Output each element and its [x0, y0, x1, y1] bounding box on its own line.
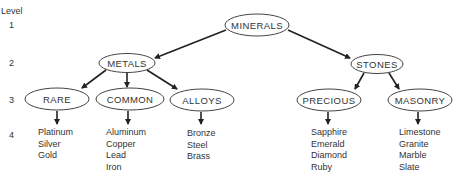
- leaf-item: Emerald: [311, 139, 347, 151]
- leaf-item: Copper: [106, 139, 146, 151]
- leaf-item: Lead: [106, 150, 146, 162]
- node-rare: RARE: [43, 94, 71, 105]
- level-4-label: 4: [9, 130, 14, 140]
- leaf-list-precious: Sapphire Emerald Diamond Ruby: [311, 127, 347, 173]
- leaf-list-common: Aluminum Copper Lead Iron: [106, 127, 146, 173]
- level-2-label: 2: [9, 58, 14, 68]
- leaf-list-rare: Platinum Silver Gold: [38, 127, 73, 162]
- leaf-item: Bronze: [187, 128, 216, 140]
- leaf-list-alloys: Bronze Steel Brass: [187, 128, 216, 163]
- node-masonry: MASONRY: [395, 95, 446, 106]
- leaf-item: Steel: [187, 140, 216, 152]
- node-alloys: ALLOYS: [182, 95, 221, 106]
- leaf-item: Slate: [399, 162, 441, 174]
- leaf-item: Iron: [106, 162, 146, 174]
- leaf-item: Limestone: [399, 127, 441, 139]
- leaf-item: Platinum: [38, 127, 73, 139]
- leaf-item: Sapphire: [311, 127, 347, 139]
- node-metals: METALS: [107, 58, 147, 69]
- leaf-item: Brass: [187, 151, 216, 163]
- level-heading: Level: [1, 6, 23, 16]
- leaf-item: Granite: [399, 139, 441, 151]
- node-minerals: MINERALS: [231, 20, 283, 31]
- level-3-label: 3: [9, 95, 14, 105]
- leaf-list-masonry: Limestone Granite Marble Slate: [399, 127, 441, 173]
- leaf-item: Aluminum: [106, 127, 146, 139]
- leaf-item: Ruby: [311, 162, 347, 174]
- leaf-item: Silver: [38, 139, 73, 151]
- level-1-label: 1: [9, 20, 14, 30]
- node-stones: STONES: [356, 59, 397, 70]
- node-common: COMMON: [107, 94, 154, 105]
- leaf-item: Gold: [38, 150, 73, 162]
- leaf-item: Diamond: [311, 150, 347, 162]
- leaf-item: Marble: [399, 150, 441, 162]
- node-precious: PRECIOUS: [303, 95, 356, 106]
